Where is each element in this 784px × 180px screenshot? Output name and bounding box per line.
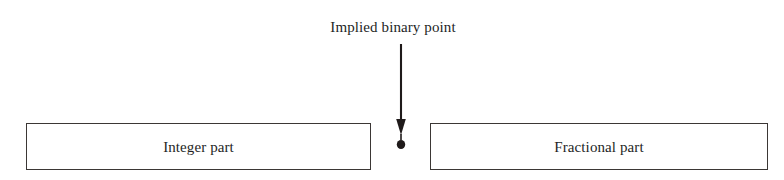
down-arrow-with-dot-icon bbox=[385, 40, 417, 155]
fixed-point-format-diagram: Implied binary point Integer part Fracti… bbox=[0, 0, 784, 180]
implied-binary-point-label: Implied binary point bbox=[293, 18, 493, 36]
fractional-part-box: Fractional part bbox=[430, 123, 768, 170]
fractional-part-label: Fractional part bbox=[554, 138, 643, 156]
integer-part-label: Integer part bbox=[163, 138, 234, 156]
integer-part-box: Integer part bbox=[26, 123, 371, 170]
